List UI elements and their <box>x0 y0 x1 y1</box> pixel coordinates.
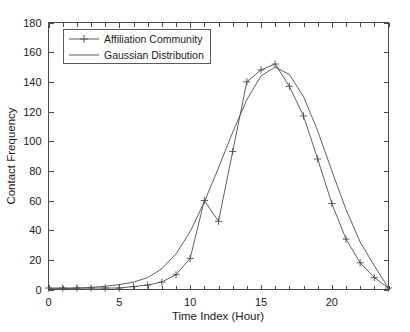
x-axis-title: Time Index (Hour) <box>172 310 264 322</box>
line-chart: 020406080100120140160180 05101520 Time I… <box>0 0 410 332</box>
data-point-marker-plus <box>144 281 151 288</box>
x-tick-label: 0 <box>45 296 51 308</box>
y-tick-label: 0 <box>35 284 41 296</box>
legend-label-affiliation-community: Affiliation Community <box>104 33 203 45</box>
y-tick-label-group: 020406080100120140160180 <box>23 17 41 296</box>
data-point-marker-plus <box>201 197 208 204</box>
data-point-marker-plus <box>229 148 236 155</box>
data-point-marker-plus <box>300 112 307 119</box>
data-point-marker-plus <box>59 284 66 291</box>
data-series-group <box>45 60 392 291</box>
series-line-affiliation-community <box>49 64 389 288</box>
data-point-marker-plus <box>158 278 165 285</box>
y-tick-label: 120 <box>23 106 41 118</box>
x-tick-label: 15 <box>255 296 267 308</box>
y-tick-label: 100 <box>23 135 41 147</box>
chart-figure: 020406080100120140160180 05101520 Time I… <box>0 0 410 332</box>
y-tick-label: 40 <box>29 224 41 236</box>
series-line-gaussian-distribution <box>49 67 389 289</box>
y-tick-label: 140 <box>23 76 41 88</box>
y-tick-label: 60 <box>29 195 41 207</box>
y-tick-label: 180 <box>23 17 41 29</box>
data-point-marker-plus <box>215 218 222 225</box>
x-tick-label: 10 <box>184 296 196 308</box>
chart-legend: Affiliation Community Gaussian Distribut… <box>64 30 211 64</box>
data-point-marker-plus <box>116 284 123 291</box>
y-tick-label: 20 <box>29 254 41 266</box>
x-tick-label: 5 <box>116 296 122 308</box>
data-point-marker-plus <box>286 83 293 90</box>
data-point-marker-plus <box>314 155 321 162</box>
data-point-marker-plus <box>102 284 109 291</box>
y-axis-title: Contact Frequency <box>5 107 17 204</box>
data-point-marker-plus <box>342 235 349 242</box>
data-point-marker-plus <box>87 284 94 291</box>
data-point-marker-plus <box>328 200 335 207</box>
x-tick-label-group: 05101520 <box>45 296 338 308</box>
legend-label-gaussian-distribution: Gaussian Distribution <box>104 49 204 61</box>
y-tick-label: 160 <box>23 46 41 58</box>
x-tick-label: 20 <box>326 296 338 308</box>
y-tick-label: 80 <box>29 165 41 177</box>
